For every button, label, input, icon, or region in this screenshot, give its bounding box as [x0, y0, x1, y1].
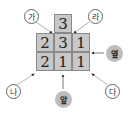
- label-da: 다: [105, 84, 120, 99]
- cell-r2-c2: 1: [54, 52, 72, 71]
- cell-r2-c3: 1: [72, 52, 90, 71]
- label-na: 나: [6, 84, 21, 99]
- cell-r1-c3: 1: [72, 33, 90, 52]
- cell-r1-c1: 2: [36, 33, 54, 52]
- cell-r2-c1: 2: [36, 52, 54, 71]
- label-side: 옆: [106, 45, 123, 62]
- label-front: 앞: [55, 91, 72, 108]
- label-ga: 가: [24, 9, 39, 24]
- cell-r1-c2: 3: [54, 33, 72, 52]
- label-ra: 라: [88, 9, 103, 24]
- top-cell: 3: [54, 14, 72, 33]
